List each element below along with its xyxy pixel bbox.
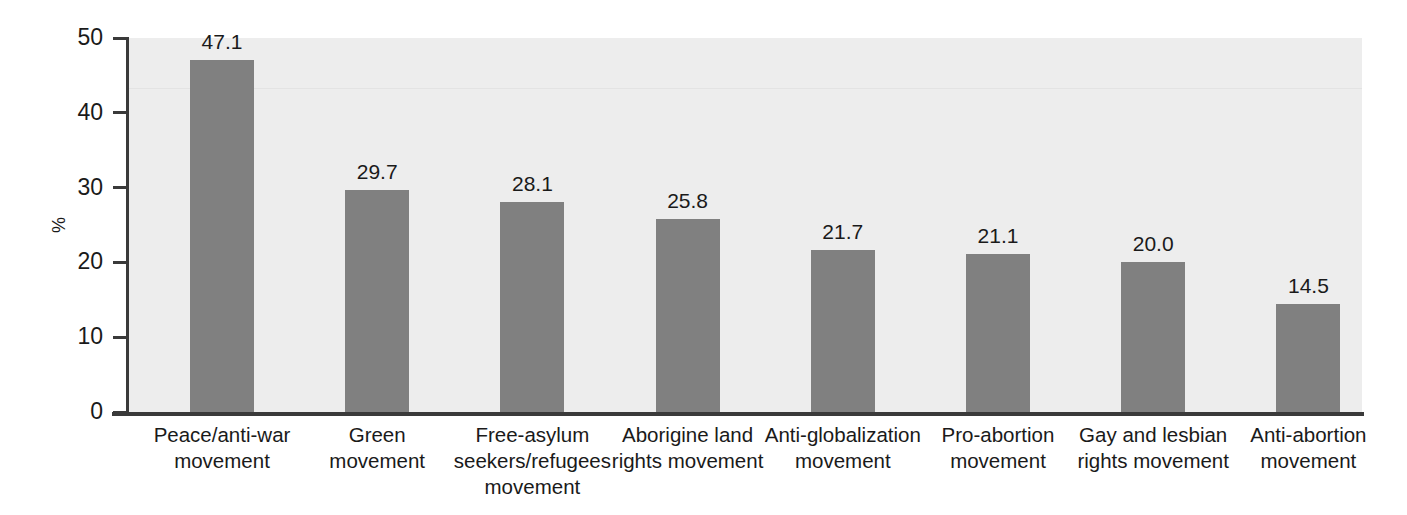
category-label: Anti-globalizationmovement: [755, 422, 931, 474]
category-label-line: movement: [289, 448, 465, 474]
category-label: Free-asylumseekers/refugeesmovement: [444, 422, 620, 500]
category-label-line: Peace/anti-war: [134, 422, 310, 448]
y-axis-line: [126, 37, 129, 414]
category-label-line: Free-asylum: [444, 422, 620, 448]
bar-group: 20.0: [1121, 262, 1185, 412]
category-label-line: Anti-globalization: [755, 422, 931, 448]
category-label-line: Anti-abortion: [1220, 422, 1396, 448]
y-axis-tick-30: [113, 186, 127, 189]
bar: [190, 60, 254, 412]
y-axis-tick-label-wrap-40: 40: [33, 99, 103, 125]
y-axis-tick-label-wrap-10: 10: [33, 323, 103, 349]
y-axis-tick-50: [113, 37, 127, 40]
y-axis-tick-label-20: 20: [33, 248, 103, 275]
y-axis-tick-label-50: 50: [33, 24, 103, 51]
bar-value-label: 28.1: [470, 172, 594, 196]
plot-faint-line: [129, 88, 1362, 89]
bar-group: 21.7: [811, 250, 875, 412]
category-label: Anti-abortionmovement: [1220, 422, 1396, 474]
category-label-line: seekers/refugees: [444, 448, 620, 474]
bar-value-label: 20.0: [1091, 232, 1215, 256]
category-label-line: movement: [1220, 448, 1396, 474]
y-axis-tick-0: [113, 411, 127, 414]
y-axis-tick-label-0: 0: [33, 398, 103, 425]
bar-value-label: 25.8: [626, 189, 750, 213]
category-label: Aborigine landrights movement: [600, 422, 776, 474]
category-label-line: Aborigine land: [600, 422, 776, 448]
y-axis-tick-label-wrap-0: 0: [33, 398, 103, 424]
y-axis-tick-label-10: 10: [33, 323, 103, 350]
y-axis-tick-20: [113, 261, 127, 264]
bar-chart-figure: 50403020100 % 47.129.728.125.821.721.120…: [0, 0, 1407, 515]
y-axis-tick-label-wrap-30: 30: [33, 174, 103, 200]
category-label: Gay and lesbianrights movement: [1065, 422, 1241, 474]
y-axis-tick-40: [113, 111, 127, 114]
category-label-line: rights movement: [600, 448, 776, 474]
category-label-line: Green: [289, 422, 465, 448]
bar: [811, 250, 875, 412]
bar: [345, 190, 409, 412]
category-label: Greenmovement: [289, 422, 465, 474]
y-axis-tick-label-30: 30: [33, 174, 103, 201]
bar: [500, 202, 564, 412]
bar: [966, 254, 1030, 412]
x-axis-line: [112, 412, 1364, 416]
bar: [656, 219, 720, 412]
category-label: Pro-abortionmovement: [910, 422, 1086, 474]
bar-value-label: 47.1: [160, 30, 284, 54]
y-axis-tick-label-wrap-50: 50: [33, 24, 103, 50]
bar: [1121, 262, 1185, 412]
bar-group: 28.1: [500, 202, 564, 412]
category-label-line: movement: [755, 448, 931, 474]
bar-value-label: 21.7: [781, 220, 905, 244]
category-label-line: rights movement: [1065, 448, 1241, 474]
bar-group: 29.7: [345, 190, 409, 412]
bar-group: 47.1: [190, 60, 254, 412]
bar: [1276, 304, 1340, 412]
bar-value-label: 29.7: [315, 160, 439, 184]
category-label-line: Gay and lesbian: [1065, 422, 1241, 448]
y-axis-title: %: [46, 212, 72, 238]
category-label-line: Pro-abortion: [910, 422, 1086, 448]
category-label: Peace/anti-warmovement: [134, 422, 310, 474]
category-label-line: movement: [134, 448, 310, 474]
y-axis-tick-10: [113, 336, 127, 339]
bar-value-label: 21.1: [936, 224, 1060, 248]
bar-group: 14.5: [1276, 304, 1340, 412]
bar-value-label: 14.5: [1246, 274, 1370, 298]
bar-group: 21.1: [966, 254, 1030, 412]
category-label-line: movement: [444, 474, 620, 500]
category-label-line: movement: [910, 448, 1086, 474]
y-axis-tick-label-wrap-20: 20: [33, 248, 103, 274]
y-axis-tick-label-40: 40: [33, 99, 103, 126]
bar-group: 25.8: [656, 219, 720, 412]
